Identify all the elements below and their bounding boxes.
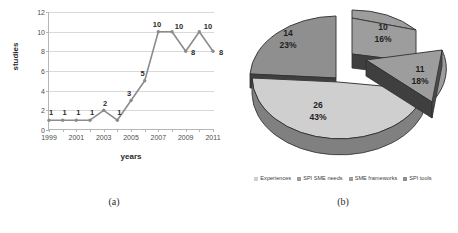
- data-label: 8: [219, 49, 223, 57]
- data-label: 1: [49, 109, 53, 117]
- slice-label-percent: 23%: [279, 40, 296, 50]
- y-tick-label: 0: [23, 127, 45, 134]
- data-label: 5: [141, 70, 145, 78]
- y-tick-label: 8: [23, 48, 45, 55]
- slice-label-percent: 18%: [411, 76, 428, 86]
- y-tick-label: 4: [23, 87, 45, 94]
- slice-label-value: 26: [313, 100, 323, 110]
- x-tick-label: 2009: [178, 134, 194, 141]
- data-label: 10: [175, 23, 183, 31]
- legend-swatch-icon: [297, 177, 301, 181]
- x-axis-title: years: [48, 152, 214, 161]
- legend-swatch-icon: [349, 177, 353, 181]
- data-label: 8: [191, 49, 195, 57]
- data-label: 1: [90, 109, 94, 117]
- legend-label: SME frameworks: [355, 175, 398, 182]
- x-tick-label: 2011: [205, 134, 220, 141]
- data-label: 1: [117, 109, 121, 117]
- caption-panel-a: (a): [0, 196, 228, 207]
- pie-legend: Experiences SPI SME needs SME frameworks…: [228, 175, 458, 182]
- slice-label-value: 11: [416, 64, 425, 74]
- data-label: 2: [103, 100, 107, 108]
- data-label: 3: [127, 90, 131, 98]
- legend-item-spi-sme-needs[interactable]: SPI SME needs: [297, 175, 343, 182]
- line-chart-plot-area: 0 2 4 6 8 10 12 1999 2001 2003 2005: [48, 12, 214, 130]
- chart-panel-b: 14 23% 10 16% 11 18% 26 43% Experiences …: [228, 0, 458, 190]
- y-tick-label: 12: [23, 9, 45, 16]
- slice-label-percent: 43%: [309, 112, 326, 122]
- y-axis-title: studies: [11, 34, 20, 80]
- y-tick-label: 2: [23, 107, 45, 114]
- x-tick-label: 2003: [96, 134, 112, 141]
- line-series-studies: [49, 12, 215, 130]
- legend-label: Experiences: [260, 175, 291, 182]
- slice-label-percent: 16%: [374, 34, 391, 44]
- caption-panel-b: (b): [228, 196, 458, 207]
- slice-label-value: 10: [378, 22, 388, 32]
- data-label: 1: [63, 109, 67, 117]
- data-label: 10: [204, 23, 212, 31]
- y-tick-label: 10: [23, 28, 45, 35]
- y-tick-label: 6: [23, 68, 45, 75]
- legend-swatch-icon: [403, 177, 407, 181]
- legend-swatch-icon: [254, 177, 258, 181]
- x-tick-label: 2007: [151, 134, 167, 141]
- legend-label: SPI tools: [409, 175, 431, 182]
- legend-item-spi-tools[interactable]: SPI tools: [403, 175, 431, 182]
- data-label: 1: [76, 109, 80, 117]
- chart-panel-a: studies 0 2 4 6 8 10 12: [0, 0, 228, 185]
- legend-item-sme-frameworks[interactable]: SME frameworks: [349, 175, 398, 182]
- legend-label: SPI SME needs: [303, 175, 343, 182]
- legend-item-experiences[interactable]: Experiences: [254, 175, 291, 182]
- pie-chart-3d: 14 23% 10 16% 11 18% 26 43%: [236, 4, 450, 172]
- figure-container: studies 0 2 4 6 8 10 12: [0, 0, 458, 233]
- x-tick-label: 1999: [41, 134, 57, 141]
- x-tick-label: 2005: [123, 134, 139, 141]
- data-label: 10: [153, 21, 161, 29]
- x-tick-label: 2001: [69, 134, 85, 141]
- slice-label-value: 14: [283, 28, 293, 38]
